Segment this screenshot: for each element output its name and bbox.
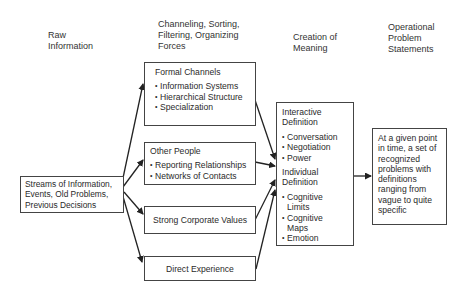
box-line: Previous Decisions	[25, 200, 123, 210]
direct-experience-box: Direct Experience	[144, 256, 256, 281]
box-line: Events, Old Problems,	[25, 189, 123, 199]
box-title: Direct Experience	[166, 264, 234, 274]
box-title: Other People	[150, 146, 255, 156]
box-line: At a given point	[378, 133, 446, 143]
raw-information-box: Streams of Information, Events, Old Prob…	[20, 176, 124, 213]
individual-definition-title: Individual	[282, 167, 353, 177]
interactive-definition-title: Definition	[282, 117, 353, 127]
interactive-definition-title: Interactive	[282, 107, 353, 117]
box-line: specific	[378, 205, 446, 215]
list-item: Networks of Contacts	[150, 171, 255, 181]
box-line: problems with	[378, 164, 446, 174]
box-line: vague to quite	[378, 195, 446, 205]
list-item: Information Systems	[155, 81, 255, 91]
box-line: Streams of Information,	[25, 179, 123, 189]
box-title: Formal Channels	[155, 67, 255, 77]
creation-of-meaning-box: Interactive Definition Conversation Nego…	[276, 102, 354, 246]
box-line: ranging from	[378, 184, 446, 194]
list-item: Conversation	[282, 132, 353, 142]
list-item: Hierarchical Structure	[155, 92, 255, 102]
box-title: Strong Corporate Values	[153, 215, 247, 225]
list-item: Reporting Relationships	[150, 160, 255, 170]
strong-corporate-values-box: Strong Corporate Values	[144, 206, 256, 234]
formal-channels-list: Information Systems Hierarchical Structu…	[155, 81, 255, 112]
list-item: Specialization	[155, 102, 255, 112]
list-item: Cognitive Limits	[282, 192, 335, 213]
operational-problem-statement-box: At a given point in time, a set of recog…	[372, 128, 447, 225]
other-people-list: Reporting Relationships Networks of Cont…	[150, 160, 255, 181]
individual-definition-list: Cognitive Limits Cognitive Maps Emotion	[282, 192, 353, 244]
formal-channels-box: Formal Channels Information Systems Hier…	[144, 62, 256, 126]
list-item: Negotiation	[282, 142, 353, 152]
other-people-box: Other People Reporting Relationships Net…	[144, 142, 256, 185]
interactive-definition-list: Conversation Negotiation Power	[282, 132, 353, 163]
list-item: Cognitive Maps	[282, 213, 343, 234]
list-item: Power	[282, 153, 353, 163]
box-line: definitions	[378, 174, 446, 184]
box-line: in time, a set of	[378, 143, 446, 153]
box-line: recognized	[378, 154, 446, 164]
individual-definition-title: Definition	[282, 177, 353, 187]
list-item: Emotion	[282, 233, 343, 243]
